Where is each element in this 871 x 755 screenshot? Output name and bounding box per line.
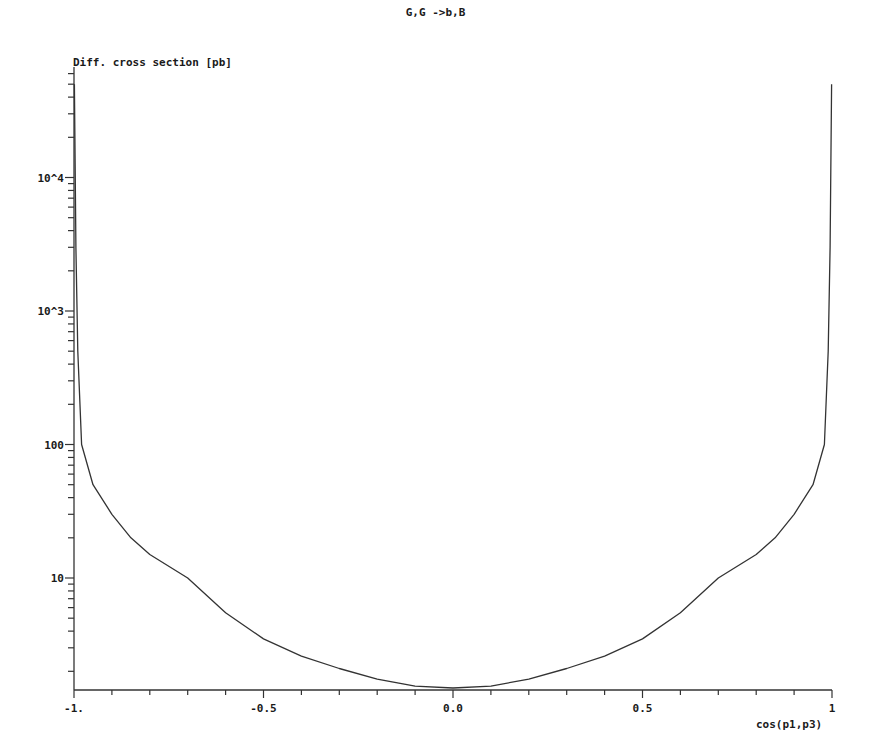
y-tick-label: 10^4 [38,172,65,185]
x-tick-label: -1. [64,702,84,715]
axes: -1.-0.50.00.511010010^310^4 [38,67,836,715]
series-line [74,84,831,688]
y-tick-label: 100 [44,439,64,452]
x-tick-label: 0.5 [633,702,653,715]
data-curve [74,84,831,688]
x-tick-label: 0.0 [443,702,463,715]
plot-area: -1.-0.50.00.511010010^310^4 [0,0,871,755]
y-tick-label: 10 [51,572,64,585]
x-tick-label: 1 [829,702,836,715]
y-tick-label: 10^3 [38,305,65,318]
x-tick-label: -0.5 [250,702,277,715]
